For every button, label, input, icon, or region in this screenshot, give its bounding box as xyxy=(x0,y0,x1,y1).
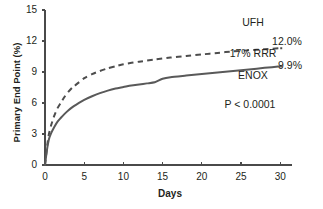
x-tick-label: 30 xyxy=(265,172,295,182)
y-tick-label: 0 xyxy=(3,160,37,170)
x-tick-label: 20 xyxy=(187,172,217,182)
enox-value: 9.9% xyxy=(278,60,302,71)
ufh-value: 12.0% xyxy=(272,36,302,47)
tick-marks xyxy=(42,10,281,165)
chart-figure: 03691215 051015202530 UFH12.0%17% RRR9.9… xyxy=(0,0,323,209)
x-tick-label: 0 xyxy=(30,172,60,182)
enox-label: ENOX xyxy=(238,70,268,81)
x-tick-label: 15 xyxy=(148,172,178,182)
x-axis-title: Days xyxy=(140,188,200,199)
series-line-enox xyxy=(45,66,280,165)
x-tick-label: 25 xyxy=(226,172,256,182)
x-tick-label: 10 xyxy=(108,172,138,182)
rrr-label: 17% RRR xyxy=(230,48,277,59)
ufh-label: UFH xyxy=(242,17,264,28)
x-tick-label: 5 xyxy=(69,172,99,182)
p-value: P < 0.0001 xyxy=(225,99,276,110)
y-axis-title: Primary End Point (%) xyxy=(11,33,22,153)
axis-lines xyxy=(45,10,292,165)
y-tick-label: 15 xyxy=(3,5,37,15)
